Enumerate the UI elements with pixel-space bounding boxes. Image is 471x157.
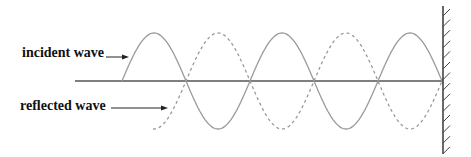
incident-wave-label: incident wave <box>22 46 104 60</box>
reflected-wave-label: reflected wave <box>20 99 106 113</box>
reflected-arrow-icon <box>111 106 168 111</box>
standing-wave-diagram <box>0 0 471 157</box>
incident-arrow-icon <box>106 55 129 60</box>
reflecting-wall <box>443 6 450 154</box>
